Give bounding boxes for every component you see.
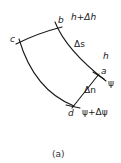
figure-caption: (a) [52, 149, 65, 159]
label-h-plus-dh: h+Δh [71, 12, 96, 22]
label-h: h [103, 51, 109, 61]
streamline-arc-psi-plus-dpsi [19, 39, 74, 106]
label-psi-plus-dpsi: ψ+Δψ [82, 107, 108, 117]
point-label-b: b [58, 15, 64, 25]
point-label-d: d [68, 108, 74, 118]
point-label-a: a [101, 66, 107, 76]
equipotential-line-h-plus-dh [16, 27, 62, 44]
point-label-c: c [10, 34, 15, 44]
label-psi: ψ [108, 78, 114, 88]
label-ds: Δs [74, 39, 85, 49]
label-dn: Δn [84, 85, 96, 95]
streamline-arc-ds [55, 22, 106, 81]
flow-net-element-diagram: c b a d h+Δh Δs h ψ Δn ψ+Δψ (a) [0, 0, 121, 163]
